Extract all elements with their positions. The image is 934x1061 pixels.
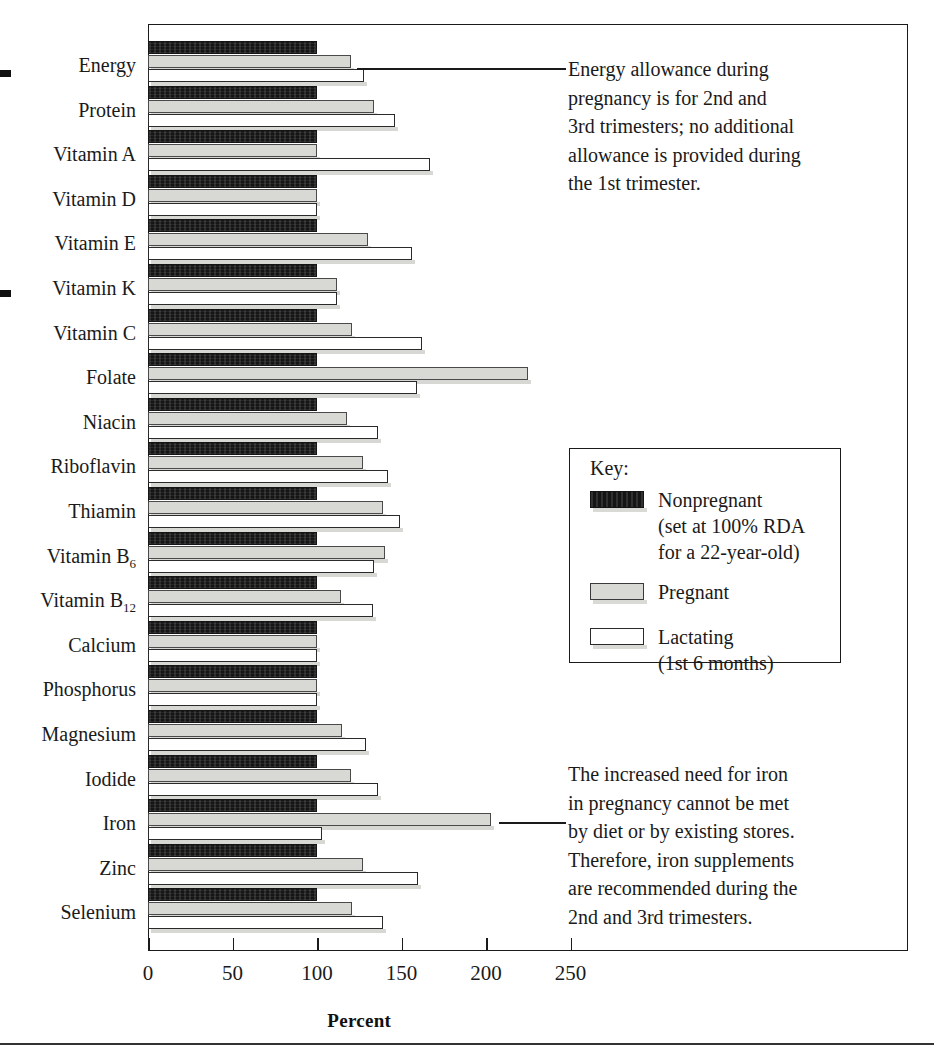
bar-magnesium-lactating: [148, 738, 366, 751]
bar-iodide-lactating: [148, 783, 378, 796]
bar-protein-lactating: [148, 114, 395, 127]
bar-vitamin-b6-pregnant: [148, 546, 385, 559]
annotation-iron-note: The increased need for ironin pregnancy …: [568, 760, 898, 931]
bar-calcium-pregnant: [148, 635, 317, 648]
category-label-vitamin-k: Vitamin K: [0, 278, 136, 298]
bar-zinc-pregnant: [148, 858, 363, 871]
bar-vitamin-a-lactating: [148, 158, 430, 171]
category-label-vitamin-e: Vitamin E: [0, 233, 136, 253]
bar-shadow: [151, 929, 386, 933]
category-label-iodide: Iodide: [0, 769, 136, 789]
x-tick-100: [317, 938, 319, 950]
category-label-vitamin-c: Vitamin C: [0, 323, 136, 343]
bar-phosphorus-nonpregnant: [148, 665, 317, 678]
legend-subline: (set at 100% RDA: [658, 513, 805, 539]
bar-vitamin-k-pregnant: [148, 278, 337, 291]
category-label-calcium: Calcium: [0, 635, 136, 655]
chart-legend: Key: Nonpregnant(set at 100% RDAfor a 22…: [569, 448, 841, 663]
light-gray-swatch: [590, 583, 644, 600]
bar-iodide-nonpregnant: [148, 755, 317, 768]
bar-calcium-nonpregnant: [148, 621, 317, 634]
bar-vitamin-d-lactating: [148, 203, 317, 216]
category-label-vitamin-a: Vitamin A: [0, 144, 136, 164]
category-label-riboflavin: Riboflavin: [0, 456, 136, 476]
annotation-line: 3rd trimesters; no additional: [568, 112, 898, 141]
annotation-line: Therefore, iron supplements: [568, 846, 898, 875]
x-tick-label-250: 250: [555, 961, 587, 986]
bar-vitamin-a-nonpregnant: [148, 130, 317, 143]
bar-riboflavin-pregnant: [148, 456, 363, 469]
bar-zinc-nonpregnant: [148, 844, 317, 857]
bar-phosphorus-lactating: [148, 693, 317, 706]
bar-vitamin-e-pregnant: [148, 233, 368, 246]
bar-vitamin-b12-pregnant: [148, 590, 341, 603]
bar-thiamin-lactating: [148, 515, 400, 528]
bar-vitamin-b6-lactating: [148, 560, 374, 573]
annotation-line: The increased need for iron: [568, 760, 898, 789]
bar-niacin-lactating: [148, 426, 378, 439]
annotation-line: pregnancy is for 2nd and: [568, 84, 898, 113]
category-label-vitamin-b12: Vitamin B12: [0, 590, 136, 618]
bar-magnesium-nonpregnant: [148, 710, 317, 723]
bar-vitamin-c-lactating: [148, 337, 422, 350]
x-tick-label-200: 200: [470, 961, 502, 986]
category-label-zinc: Zinc: [0, 858, 136, 878]
legend-label-pregnant: Pregnant: [658, 579, 729, 605]
annotation-line: are recommended during the: [568, 874, 898, 903]
bar-selenium-pregnant: [148, 902, 352, 915]
x-tick-label-100: 100: [301, 961, 333, 986]
bar-zinc-lactating: [148, 872, 418, 885]
bar-iron-nonpregnant: [148, 799, 317, 812]
annotation-energy-note: Energy allowance duringpregnancy is for …: [568, 55, 898, 198]
category-label-thiamin: Thiamin: [0, 501, 136, 521]
x-tick-200: [486, 938, 488, 950]
category-label-vitamin-d: Vitamin D: [0, 189, 136, 209]
white-outline-swatch: [590, 628, 644, 645]
category-label-protein: Protein: [0, 100, 136, 120]
page-bottom-rule: [0, 1043, 934, 1045]
bar-riboflavin-lactating: [148, 470, 388, 483]
leader-line-iron: [499, 822, 566, 824]
bar-energy-nonpregnant: [148, 41, 317, 54]
bar-thiamin-pregnant: [148, 501, 383, 514]
category-label-niacin: Niacin: [0, 412, 136, 432]
category-label-energy: Energy: [0, 55, 136, 75]
bar-phosphorus-pregnant: [148, 679, 317, 692]
bar-iodide-pregnant: [148, 769, 351, 782]
bar-calcium-lactating: [148, 649, 317, 662]
category-label-phosphorus: Phosphorus: [0, 679, 136, 699]
black-textured-swatch: [590, 491, 644, 508]
bar-vitamin-d-nonpregnant: [148, 175, 317, 188]
annotation-line: in pregnancy cannot be met: [568, 789, 898, 818]
category-label-folate: Folate: [0, 367, 136, 387]
annotation-line: allowance is provided during: [568, 141, 898, 170]
bar-protein-nonpregnant: [148, 86, 317, 99]
bar-vitamin-e-nonpregnant: [148, 219, 317, 232]
figure-nutrient-rda-chart: EnergyProteinVitamin AVitamin DVitamin E…: [0, 0, 934, 1061]
x-tick-150: [402, 938, 404, 950]
bar-thiamin-nonpregnant: [148, 487, 317, 500]
bar-energy-pregnant: [148, 55, 351, 68]
leader-line-energy: [357, 68, 566, 70]
legend-swatch-shadow: [593, 508, 647, 512]
category-label-vitamin-b6: Vitamin B6: [0, 546, 136, 574]
bar-vitamin-c-nonpregnant: [148, 309, 317, 322]
x-tick-0: [148, 938, 150, 950]
annotation-line: 2nd and 3rd trimesters.: [568, 903, 898, 932]
annotation-line: Energy allowance during: [568, 55, 898, 84]
legend-label-lactating: Lactating: [658, 624, 734, 650]
x-tick-50: [233, 938, 235, 950]
legend-subline: (1st 6 months): [658, 650, 774, 676]
bar-vitamin-k-lactating: [148, 292, 337, 305]
annotation-line: the 1st trimester.: [568, 169, 898, 198]
bar-iron-lactating: [148, 827, 322, 840]
annotation-line: by diet or by existing stores.: [568, 817, 898, 846]
category-label-iron: Iron: [0, 813, 136, 833]
bar-selenium-nonpregnant: [148, 888, 317, 901]
legend-swatch-shadow: [593, 600, 647, 604]
bar-iron-pregnant: [148, 813, 491, 826]
legend-swatch-shadow: [593, 645, 647, 649]
bar-magnesium-pregnant: [148, 724, 342, 737]
bar-protein-pregnant: [148, 100, 374, 113]
bar-folate-pregnant: [148, 367, 528, 380]
